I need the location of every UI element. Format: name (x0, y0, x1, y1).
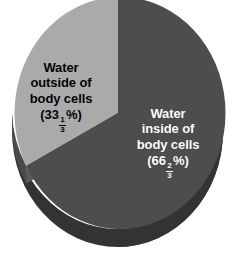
percent-whole: 33 (45, 107, 59, 122)
pie-label-outside-cells: Water outside of body cells (3313%) (18, 60, 104, 134)
paren-close: ) (77, 107, 81, 122)
pie-value-outside-cells: (3313%) (18, 107, 104, 134)
fraction-denominator: 3 (166, 172, 172, 180)
paren-close: ) (184, 153, 188, 168)
percent-symbol: % (173, 153, 184, 168)
percent-symbol: % (66, 107, 77, 122)
percent-whole: 66 (152, 153, 166, 168)
pie-label-outside-line2: outside of (18, 75, 104, 90)
pie-label-outside-line1: Water (18, 60, 104, 75)
pie-label-inside-line1: Water (118, 106, 218, 121)
pie-label-inside-cells: Water inside of body cells (6623%) (118, 106, 218, 180)
pie-label-outside-line3: body cells (18, 91, 104, 106)
pie-label-inside-line3: body cells (118, 137, 218, 152)
pie-label-inside-line2: inside of (118, 121, 218, 136)
pie-chart: Water outside of body cells (3313%) Wate… (0, 0, 235, 268)
fraction-denominator: 3 (59, 126, 65, 134)
pie-value-inside-cells: (6623%) (118, 153, 218, 180)
percent-fraction: 23 (166, 162, 172, 180)
percent-fraction: 13 (59, 116, 65, 134)
